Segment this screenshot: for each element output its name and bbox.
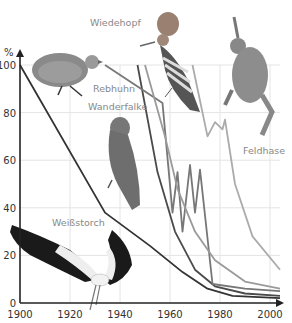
falcon-image: [108, 117, 140, 210]
x-tick-label: 1960: [157, 309, 182, 320]
y-tick-label: 20: [3, 250, 16, 261]
series-label: Weißstorch: [52, 217, 105, 228]
y-tick-label: 80: [3, 108, 16, 119]
population-decline-chart: % 190019201940196019802000020406080100 W…: [0, 0, 292, 323]
series-label: Feldhase: [243, 145, 285, 156]
x-axis-arrow-icon: [276, 299, 284, 307]
x-tick-label: 1900: [7, 309, 32, 320]
y-unit-label: %: [4, 47, 14, 58]
series-line-feldhase: [193, 65, 281, 270]
x-tick-label: 1980: [207, 309, 232, 320]
series-label: Wanderfalke: [88, 101, 147, 112]
y-tick-label: 60: [3, 155, 16, 166]
x-tick-label: 1940: [107, 309, 132, 320]
stork-image: [10, 225, 132, 310]
hare-image: [225, 17, 272, 135]
y-tick-label: 40: [3, 203, 16, 214]
y-tick-label: 0: [10, 298, 16, 309]
series-label: Wiedehopf: [90, 17, 141, 28]
x-tick-label: 2000: [257, 309, 282, 320]
y-axis-arrow-icon: [16, 49, 24, 57]
y-tick-label: 100: [0, 60, 16, 71]
x-tick-label: 1920: [57, 309, 82, 320]
series-label: Rebhuhn: [93, 83, 135, 94]
axis-ticks: 190019201940196019802000020406080100: [0, 60, 283, 320]
